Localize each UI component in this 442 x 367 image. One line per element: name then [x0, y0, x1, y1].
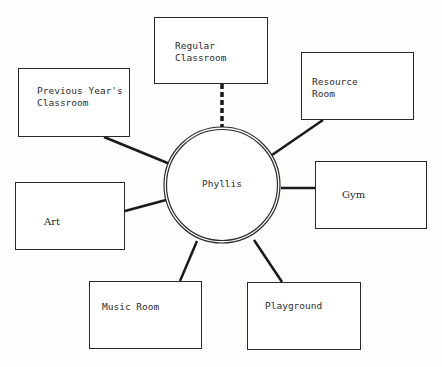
node-label-line1: Art	[44, 216, 60, 228]
node-resource-room: Resource Room	[301, 52, 414, 120]
node-label-line2: Room	[312, 88, 335, 100]
ecomap-diagram: Phyllis Regular Classroom Previous Year'…	[0, 0, 442, 367]
center-label: Phyllis	[164, 178, 280, 189]
node-label-line2: Classroom	[175, 52, 226, 64]
node-gym: Gym	[315, 161, 427, 229]
node-label-line1: Playground	[265, 300, 322, 312]
connector-art	[125, 200, 166, 211]
connector-resource-room	[272, 120, 323, 155]
center-node: Phyllis	[164, 178, 280, 192]
node-previous-years-classroom: Previous Year's Classroom	[18, 68, 130, 137]
node-label-line1: Regular	[175, 40, 215, 52]
node-music-room: Music Room	[89, 281, 202, 349]
node-label-line1: Music Room	[102, 301, 159, 313]
node-label-line1: Resource	[312, 76, 358, 88]
connector-music-room	[180, 241, 197, 281]
connector-playground	[254, 240, 282, 282]
node-playground: Playground	[247, 282, 361, 350]
connector-previous-years-classroom	[104, 137, 170, 164]
node-art: Art	[15, 182, 125, 250]
node-label-line2: Classroom	[37, 97, 88, 109]
node-regular-classroom: Regular Classroom	[154, 17, 268, 84]
node-label-line1: Gym	[342, 189, 365, 201]
node-label-line1: Previous Year's	[37, 85, 123, 97]
